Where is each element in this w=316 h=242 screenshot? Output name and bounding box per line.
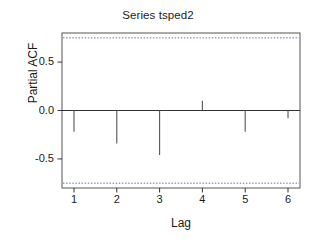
plot-area (0, 0, 316, 242)
pacf-chart: Series tsped2 Partial ACF Lag 0.50.0-0.5… (0, 0, 316, 242)
